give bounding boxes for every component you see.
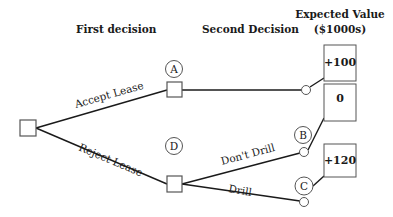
label-drill: Drill bbox=[228, 182, 254, 198]
value-drill: +120 bbox=[324, 154, 357, 167]
node-letter-c: C bbox=[300, 180, 308, 192]
header-expected-value: Expected Value bbox=[295, 8, 385, 20]
connector-120 bbox=[313, 176, 324, 186]
header-second-decision: Second Decision bbox=[202, 23, 299, 35]
terminal-node-accept bbox=[302, 86, 311, 95]
header-units: ($1000s) bbox=[314, 23, 366, 35]
header-first-decision: First decision bbox=[76, 23, 157, 35]
label-reject-lease: Reject Lease bbox=[77, 141, 144, 179]
value-accept: +100 bbox=[324, 56, 357, 69]
terminal-node-drill bbox=[300, 198, 309, 207]
root-decision-node bbox=[20, 120, 36, 136]
label-accept-lease: Accept Lease bbox=[72, 79, 144, 110]
node-letter-a: A bbox=[169, 63, 178, 75]
decision-node-d bbox=[167, 176, 182, 192]
node-letter-b: B bbox=[299, 129, 307, 141]
terminal-node-dont-drill bbox=[300, 148, 309, 157]
value-dont-drill: 0 bbox=[336, 92, 344, 105]
node-letter-d: D bbox=[170, 140, 178, 152]
connector-100 bbox=[310, 78, 324, 87]
decision-tree: First decision Second Decision Expected … bbox=[0, 0, 393, 217]
label-dont-drill: Don't Drill bbox=[219, 141, 276, 167]
decision-node-a bbox=[167, 82, 182, 97]
